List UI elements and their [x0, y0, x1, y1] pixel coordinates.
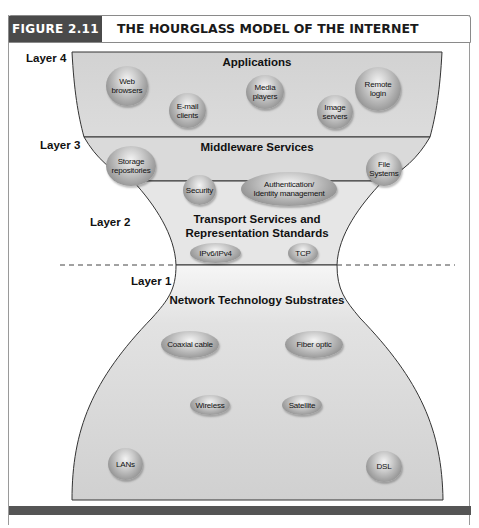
layer3-title: Middleware Services — [182, 140, 332, 154]
layer2-title-line2: Representation Standards — [172, 226, 342, 240]
layer2-title-line1: Transport Services and — [172, 212, 342, 226]
node-fiber-optic: Fiber optic — [285, 331, 343, 358]
layer1-label: Layer 1 — [131, 275, 171, 287]
node-satellite: Satellite — [282, 395, 322, 415]
node-lans: LANs — [108, 448, 143, 480]
layer4-title: Applications — [207, 55, 307, 69]
node-storage-repositories: Storagerepositories — [106, 146, 156, 186]
node-authentication-identity: Authentication/Identity management — [241, 172, 337, 206]
node-security: Security — [183, 175, 216, 205]
node-file-systems: FileSystems — [366, 152, 402, 186]
node-image-servers: Imageservers — [317, 95, 353, 129]
node-email-clients: E-mailclients — [169, 93, 206, 128]
node-dsl: DSL — [366, 451, 402, 482]
node-tcp: TCP — [288, 243, 318, 263]
node-wireless: Wireless — [190, 395, 230, 415]
node-ipv6-ipv4: IPv6/IPv4 — [190, 243, 241, 263]
layer3-label: Layer 3 — [40, 139, 80, 151]
node-coaxial-cable: Coaxial cable — [161, 331, 219, 358]
node-remote-login: Remotelogin — [355, 67, 401, 111]
node-web-browsers: Webbrowsers — [106, 66, 148, 106]
node-media-players: Mediaplayers — [246, 75, 284, 109]
bottom-rule — [9, 506, 471, 515]
layer2-label: Layer 2 — [90, 216, 130, 228]
layer4-label: Layer 4 — [26, 52, 66, 64]
hourglass-shape — [0, 0, 479, 528]
layer1-title: Network Technology Substrates — [152, 293, 362, 307]
